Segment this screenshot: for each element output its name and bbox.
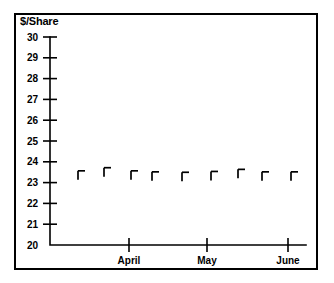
x-tick-label-june: June [276,255,300,266]
y-tick-label-29: 29 [27,52,39,63]
y-tick-label-24: 24 [27,156,39,167]
x-tick-label-may: May [197,255,217,266]
chart-page: $/Share 3029282726252423222120 AprilMayJ… [0,0,334,283]
y-tick-label-22: 22 [27,198,39,209]
y-tick-label-20: 20 [27,240,39,251]
x-axis-ticks: AprilMayJune [118,238,300,266]
plot-area: 3029282726252423222120 AprilMayJune [0,0,334,283]
y-axis-ticks: 3029282726252423222120 [27,32,57,251]
data-point-5 [182,172,189,181]
data-point-4 [152,172,159,181]
y-tick-label-25: 25 [27,136,39,147]
data-point-9 [291,172,298,181]
data-point-2 [104,168,111,177]
y-tick-label-23: 23 [27,177,39,188]
x-tick-label-april: April [118,255,141,266]
y-tick-label-30: 30 [27,32,39,43]
y-tick-label-21: 21 [27,219,39,230]
data-point-7 [238,169,245,178]
data-point-8 [262,172,269,181]
axes-group [50,37,306,245]
data-point-1 [78,171,85,180]
y-tick-label-28: 28 [27,73,39,84]
axis-spine [50,37,306,245]
data-point-6 [211,171,218,180]
data-markers [78,168,298,182]
data-point-3 [131,171,138,180]
y-tick-label-26: 26 [27,115,39,126]
y-tick-label-27: 27 [27,94,39,105]
